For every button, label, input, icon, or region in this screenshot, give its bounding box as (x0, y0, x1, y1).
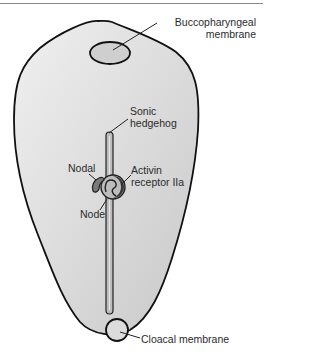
activin-label-line1: Activin (131, 164, 184, 176)
buccopharyngeal-label: Buccopharyngeal membrane (150, 16, 256, 40)
buccopharyngeal-label-line2: membrane (150, 28, 256, 40)
cloacal-label: Cloacal membrane (141, 333, 229, 345)
cloacal-membrane (106, 319, 128, 341)
activin-label-line2: receptor IIa (131, 176, 184, 188)
sonic-label-line1: Sonic (130, 105, 177, 117)
activin-label: Activin receptor IIa (131, 164, 184, 188)
nodal-label: Nodal (68, 162, 95, 174)
sonic-label-line2: hedgehog (130, 117, 177, 129)
sonic-hedgehog-label: Sonic hedgehog (130, 105, 177, 129)
buccopharyngeal-membrane (90, 42, 130, 64)
node-label: Node (80, 208, 105, 220)
buccopharyngeal-label-line1: Buccopharyngeal (150, 16, 256, 28)
